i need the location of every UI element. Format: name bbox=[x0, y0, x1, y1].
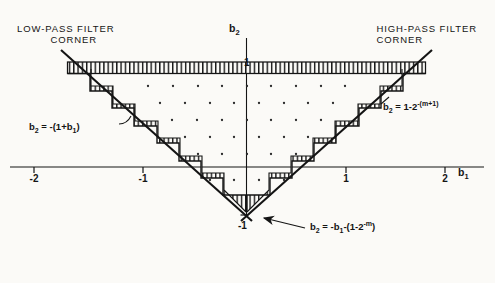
left-eq-rhs-tail: ) bbox=[76, 121, 79, 132]
x-tick-label-plus1: 1 bbox=[337, 173, 355, 185]
x-axis-ticks bbox=[34, 167, 445, 173]
left-eq-equals: = bbox=[39, 121, 50, 132]
y-tick-label-minus-one: -1 bbox=[238, 220, 247, 232]
right-edge-equation-label: b2 = 1-2-(m+1) bbox=[383, 100, 438, 115]
y-axis-label: b2 bbox=[229, 22, 240, 38]
y-axis-label-sub: 2 bbox=[235, 28, 239, 37]
y-axis-ticks bbox=[241, 66, 247, 215]
x-axis-label-sub: 1 bbox=[464, 172, 468, 181]
right-staircase-hatched-band bbox=[241, 50, 432, 221]
high-pass-corner-line1: HIGH-PASS FILTER bbox=[376, 23, 477, 34]
x-tick-label-plus2: 2 bbox=[436, 173, 454, 185]
x-tick-label-minus2: -2 bbox=[25, 173, 43, 185]
bottom-eq-equals: = bbox=[320, 221, 331, 232]
x-tick-label-minus1: -1 bbox=[134, 173, 152, 185]
high-pass-corner-line2: CORNER bbox=[376, 35, 477, 46]
y-tick-label-one: 1 bbox=[244, 57, 250, 69]
bottom-eq-rhs-sup: -m bbox=[363, 220, 372, 227]
low-pass-filter-corner-label: LOW-PASS FILTER CORNER bbox=[17, 24, 114, 46]
x-axis-label: b1 bbox=[458, 166, 469, 182]
bottom-eq-rhs: -b bbox=[331, 221, 340, 232]
left-staircase-hatched-band bbox=[61, 50, 252, 221]
bottom-eq-rhs-tail: ) bbox=[372, 221, 375, 232]
figure-page: LOW-PASS FILTER CORNER HIGH-PASS FILTER … bbox=[0, 0, 495, 283]
right-eq-equals: = bbox=[393, 101, 404, 112]
right-eq-rhs: 1-2 bbox=[404, 101, 418, 112]
low-pass-corner-line2: CORNER bbox=[17, 35, 114, 46]
low-pass-corner-line1: LOW-PASS FILTER bbox=[17, 23, 114, 34]
left-edge-equation-label: b2 = -(1+b1) bbox=[29, 122, 80, 135]
bottom-eq-rhs-mid: -(1-2 bbox=[343, 221, 363, 232]
left-eq-rhs: -(1+b bbox=[50, 121, 73, 132]
high-pass-filter-corner-label: HIGH-PASS FILTER CORNER bbox=[376, 24, 477, 46]
bottom-edge-equation-label: b2 = -b1-(1-2-m) bbox=[310, 220, 375, 235]
right-eq-rhs-sup: -(m+1) bbox=[417, 100, 438, 107]
